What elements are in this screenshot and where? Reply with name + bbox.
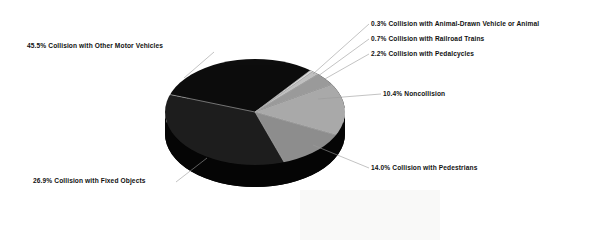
pie-chart-canvas [0,0,598,242]
leader-line-animal-drawn [313,24,369,74]
label-pedalcycles: 2.2% Collision with Pedalcycles [371,49,474,58]
label-animal-drawn: 0.3% Collision with Animal-Drawn Vehicle… [371,19,539,28]
label-fixed-objects: 26.9% Collision with Fixed Objects [33,176,146,185]
pie-chart-figure: 0.3% Collision with Animal-Drawn Vehicle… [0,0,598,242]
label-other-motor-vehicles: 45.5% Collision with Other Motor Vehicle… [27,41,163,50]
label-pedestrians: 14.0% Collision with Pedestrians [371,163,477,172]
label-railroad-trains: 0.7% Collision with Railroad Trains [371,34,484,43]
label-noncollision: 10.4% Noncollision [383,89,445,98]
